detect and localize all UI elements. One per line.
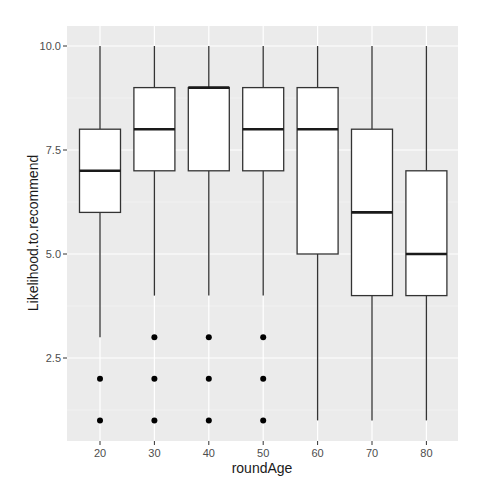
x-tick-label: 70 [366,447,378,459]
y-tick-label: 2.5 [46,352,61,364]
outlier-point [260,376,266,382]
outlier-point [206,376,212,382]
outlier-point [260,334,266,340]
boxplot-chart: 2.55.07.510.0 20304050607080 roundAge Li… [0,0,482,501]
x-tick-label: 30 [148,447,160,459]
iqr-box [297,88,338,254]
outlier-point [260,417,266,423]
x-tick-label: 80 [420,447,432,459]
outlier-point [206,334,212,340]
iqr-box [188,88,229,171]
x-tick-label: 20 [94,447,106,459]
outlier-point [206,417,212,423]
x-tick-label: 40 [203,447,215,459]
x-axis-title: roundAge [232,460,293,476]
iqr-box [406,171,447,296]
y-axis-title: Likelihood.to.recommend [25,155,41,311]
y-tick-label: 10.0 [40,40,61,52]
outlier-point [97,376,103,382]
y-axis: 2.55.07.510.0 [40,40,67,364]
x-tick-label: 60 [311,447,323,459]
x-tick-label: 50 [257,447,269,459]
outlier-point [151,376,157,382]
outlier-point [151,417,157,423]
y-tick-label: 7.5 [46,144,61,156]
y-tick-label: 5.0 [46,248,61,260]
x-axis: 20304050607080 [94,441,433,459]
outlier-point [97,417,103,423]
outlier-point [151,334,157,340]
